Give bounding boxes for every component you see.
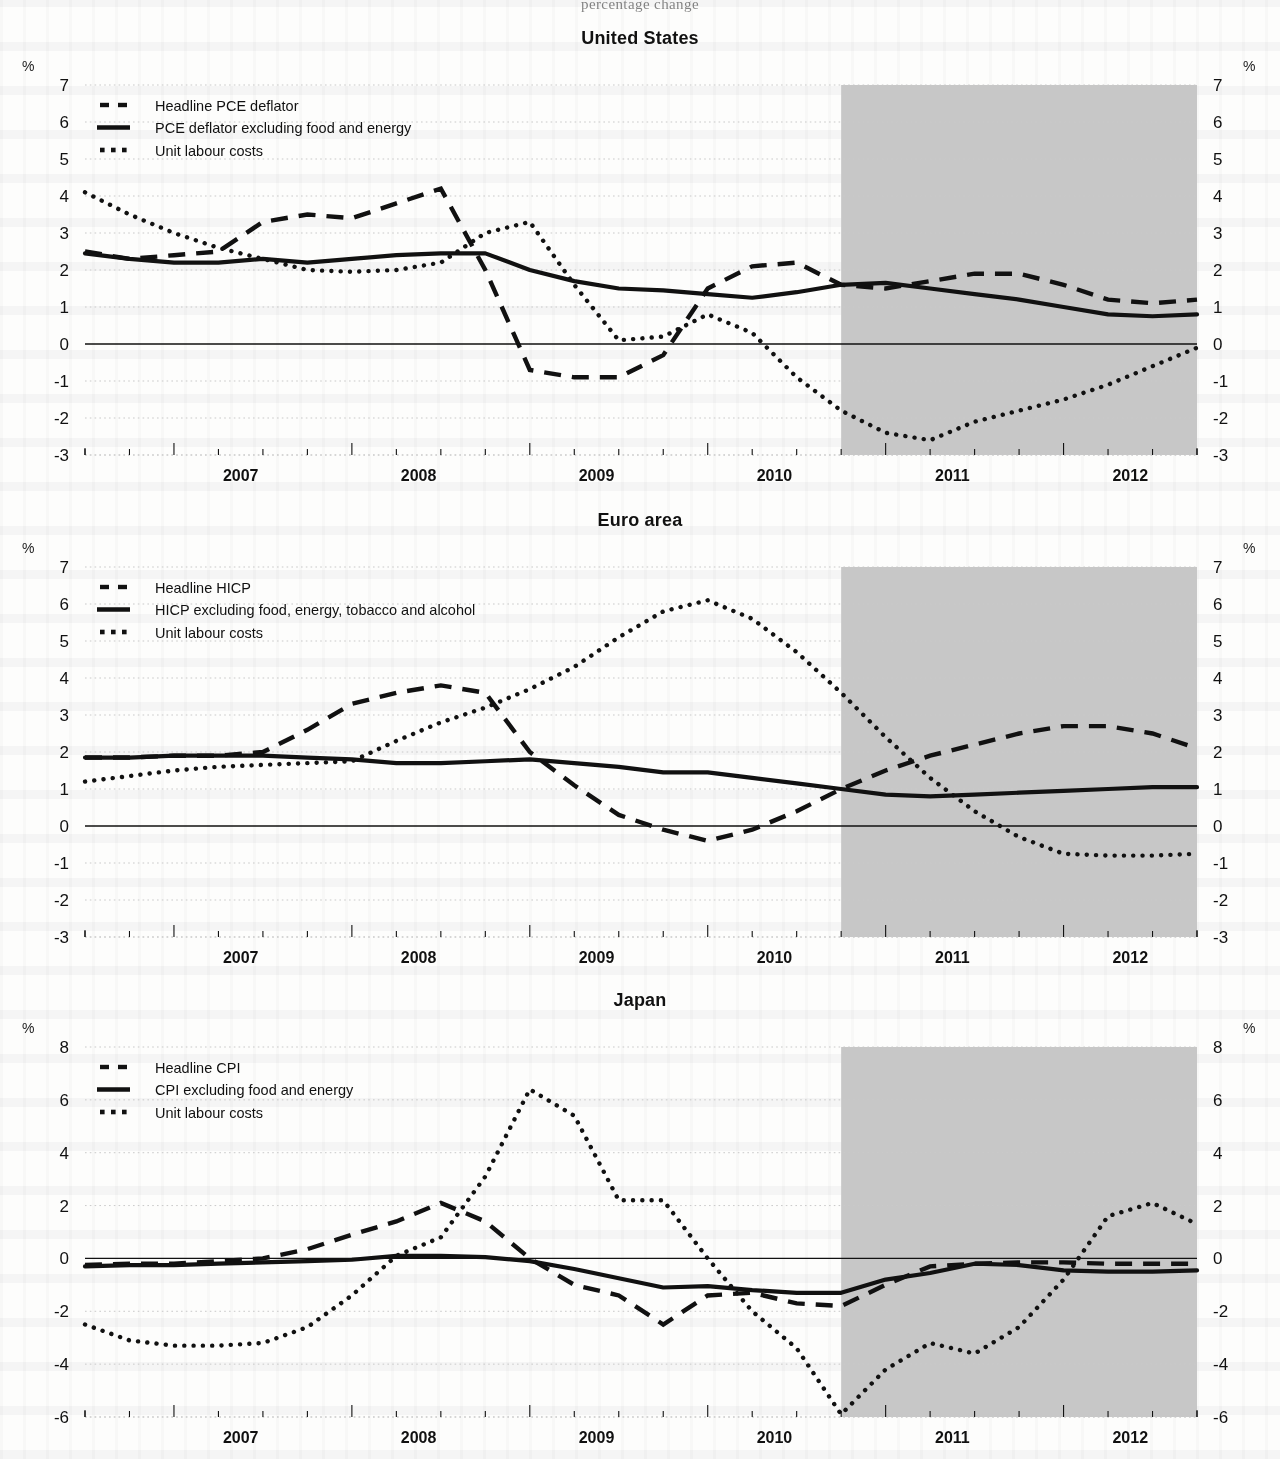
y-axis-tick-label-left: 2	[60, 743, 69, 762]
y-axis-tick-label-left: 2	[60, 1197, 69, 1216]
x-axis-year-label: 2009	[579, 467, 615, 484]
y-axis-tick-label-right: 4	[1213, 1144, 1222, 1163]
x-axis-year-label: 2010	[757, 949, 793, 966]
x-axis-year-label: 2007	[223, 467, 259, 484]
legend-label: CPI excluding food and energy	[155, 1082, 354, 1098]
y-axis-tick-label-right: -6	[1213, 1408, 1228, 1427]
y-axis-tick-label-left: -4	[54, 1355, 69, 1374]
plot-area-united-states: -3-3-2-2-1-10011223344556677200720082009…	[0, 70, 1280, 490]
legend-label: Unit labour costs	[155, 625, 263, 641]
forecast-shaded-region	[841, 85, 1197, 455]
panel-title-united-states: United States	[0, 28, 1280, 49]
y-axis-tick-label-left: 6	[60, 1091, 69, 1110]
y-axis-tick-label-left: 3	[60, 224, 69, 243]
chart-page: percentage change United States % % -3-3…	[0, 0, 1280, 1459]
y-axis-tick-label-left: 4	[60, 1144, 69, 1163]
y-axis-tick-label-left: -2	[54, 891, 69, 910]
y-axis-tick-label-right: 2	[1213, 261, 1222, 280]
y-axis-tick-label-left: 2	[60, 261, 69, 280]
y-axis-tick-label-right: 3	[1213, 224, 1222, 243]
legend-label: Unit labour costs	[155, 143, 263, 159]
y-axis-tick-label-right: -4	[1213, 1355, 1228, 1374]
legend-entry: Unit labour costs	[100, 625, 263, 641]
legend-entry: PCE deflator excluding food and energy	[97, 120, 412, 136]
x-axis-year-label: 2007	[223, 949, 259, 966]
y-axis-tick-label-right: 0	[1213, 1249, 1222, 1268]
x-axis-year-label: 2012	[1112, 949, 1148, 966]
y-axis-tick-label-right: 4	[1213, 187, 1222, 206]
y-axis-tick-label-right: -2	[1213, 409, 1228, 428]
y-axis-tick-label-right: 1	[1213, 298, 1222, 317]
legend-label: Headline HICP	[155, 580, 251, 596]
y-axis-tick-label-right: 3	[1213, 706, 1222, 725]
y-axis-tick-label-left: -3	[54, 446, 69, 465]
y-axis-tick-label-left: 6	[60, 113, 69, 132]
y-axis-tick-label-left: -1	[54, 372, 69, 391]
y-axis-tick-label-right: 4	[1213, 669, 1222, 688]
forecast-shaded-region	[841, 1047, 1197, 1417]
y-axis-tick-label-right: 6	[1213, 595, 1222, 614]
x-axis-year-label: 2012	[1112, 1429, 1148, 1446]
y-axis-tick-label-left: 3	[60, 706, 69, 725]
x-axis-year-label: 2009	[579, 1429, 615, 1446]
panel-title-euro-area: Euro area	[0, 510, 1280, 531]
y-axis-tick-label-right: 0	[1213, 817, 1222, 836]
y-axis-tick-label-left: -3	[54, 928, 69, 947]
y-axis-tick-label-left: 1	[60, 298, 69, 317]
y-axis-tick-label-left: 7	[60, 558, 69, 577]
plot-area-japan: -6-6-4-4-2-20022446688200720082009201020…	[0, 1032, 1280, 1452]
y-axis-tick-label-right: 5	[1213, 632, 1222, 651]
y-axis-tick-label-right: -1	[1213, 854, 1228, 873]
y-axis-tick-label-right: -2	[1213, 891, 1228, 910]
y-axis-tick-label-left: 0	[60, 817, 69, 836]
legend-label: Headline PCE deflator	[155, 98, 299, 114]
y-axis-tick-label-right: 8	[1213, 1038, 1222, 1057]
y-axis-tick-label-right: -3	[1213, 928, 1228, 947]
y-axis-tick-label-left: 8	[60, 1038, 69, 1057]
y-axis-tick-label-left: -6	[54, 1408, 69, 1427]
y-axis-tick-label-left: 0	[60, 1249, 69, 1268]
x-axis-year-label: 2011	[935, 467, 970, 484]
legend-entry: Headline CPI	[100, 1060, 240, 1076]
y-axis-tick-label-left: 6	[60, 595, 69, 614]
y-axis-tick-label-left: 7	[60, 76, 69, 95]
x-axis-year-label: 2009	[579, 949, 615, 966]
legend-label: PCE deflator excluding food and energy	[155, 120, 412, 136]
y-axis-tick-label-right: 5	[1213, 150, 1222, 169]
legend-label: Unit labour costs	[155, 1105, 263, 1121]
x-axis-year-label: 2007	[223, 1429, 259, 1446]
x-axis-year-label: 2012	[1112, 467, 1148, 484]
y-axis-tick-label-left: 1	[60, 780, 69, 799]
y-axis-tick-label-right: -2	[1213, 1302, 1228, 1321]
forecast-shaded-region	[841, 567, 1197, 937]
y-axis-tick-label-right: 6	[1213, 1091, 1222, 1110]
x-axis-year-label: 2010	[757, 1429, 793, 1446]
legend-label: HICP excluding food, energy, tobacco and…	[155, 602, 475, 618]
cut-off-header-text: percentage change	[0, 0, 1280, 14]
y-axis-tick-label-left: -2	[54, 409, 69, 428]
y-axis-tick-label-right: 0	[1213, 335, 1222, 354]
x-axis-year-label: 2010	[757, 467, 793, 484]
y-axis-tick-label-right: 2	[1213, 1197, 1222, 1216]
y-axis-tick-label-right: 7	[1213, 76, 1222, 95]
legend-entry: Headline PCE deflator	[100, 98, 299, 114]
y-axis-tick-label-left: 5	[60, 150, 69, 169]
y-axis-tick-label-right: -1	[1213, 372, 1228, 391]
x-axis-year-label: 2011	[935, 1429, 970, 1446]
legend-entry: CPI excluding food and energy	[97, 1082, 354, 1098]
plot-area-euro-area: -3-3-2-2-1-10011223344556677200720082009…	[0, 552, 1280, 972]
y-axis-tick-label-left: -1	[54, 854, 69, 873]
x-axis-year-label: 2008	[401, 1429, 437, 1446]
x-axis-year-label: 2008	[401, 949, 437, 966]
legend-entry: Headline HICP	[100, 580, 251, 596]
legend-entry: Unit labour costs	[100, 143, 263, 159]
y-axis-tick-label-right: -3	[1213, 446, 1228, 465]
legend-label: Headline CPI	[155, 1060, 240, 1076]
y-axis-tick-label-right: 2	[1213, 743, 1222, 762]
y-axis-tick-label-right: 1	[1213, 780, 1222, 799]
y-axis-tick-label-left: 0	[60, 335, 69, 354]
y-axis-tick-label-right: 6	[1213, 113, 1222, 132]
legend-entry: Unit labour costs	[100, 1105, 263, 1121]
y-axis-tick-label-left: 4	[60, 669, 69, 688]
y-axis-tick-label-left: 5	[60, 632, 69, 651]
